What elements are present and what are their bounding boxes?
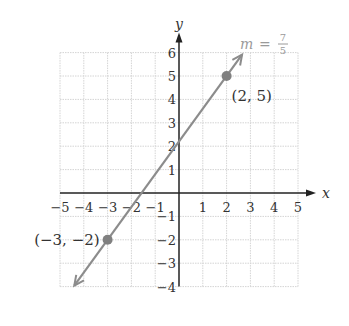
plot-lines <box>74 55 242 286</box>
y-tick-label: 4 <box>168 92 176 107</box>
y-tick-label: −1 <box>157 209 176 224</box>
data-point <box>103 235 113 245</box>
x-tick-label: 2 <box>222 200 230 215</box>
y-tick-label: −4 <box>157 280 176 295</box>
y-tick-label: 3 <box>168 116 176 131</box>
slope-variable: m <box>240 36 253 52</box>
y-tick-label: −3 <box>157 256 176 271</box>
x-tick-label: −4 <box>74 200 93 215</box>
y-tick-label: 6 <box>168 46 176 61</box>
x-tick-label: 3 <box>246 200 254 215</box>
slope-numerator: 7 <box>280 32 286 43</box>
point-label: (2, 5) <box>232 87 272 105</box>
plot-points: (−3, −2)(2, 5) <box>34 71 272 249</box>
y-tick-label: 1 <box>168 163 176 178</box>
data-point <box>222 71 232 81</box>
x-axis-label: x <box>322 185 330 201</box>
y-axis-arrow-icon <box>176 33 183 43</box>
axes: xy <box>60 16 330 287</box>
y-tick-label: −2 <box>157 233 176 248</box>
point-label: (−3, −2) <box>34 231 99 249</box>
x-tick-label: −3 <box>98 200 117 215</box>
x-tick-label: 5 <box>294 200 302 215</box>
slope-equals: = <box>259 36 271 52</box>
x-axis-arrow-icon <box>306 190 316 197</box>
x-tick-label: 1 <box>199 200 207 215</box>
x-tick-label: −5 <box>50 200 69 215</box>
slope-denominator: 5 <box>280 45 286 56</box>
y-axis-label: y <box>174 16 184 32</box>
coordinate-plane: xy −5−4−3−2−112345−4−3−2−1123456 (−3, −2… <box>0 0 349 326</box>
y-tick-label: 5 <box>168 69 176 84</box>
series-line <box>74 55 242 286</box>
x-tick-label: 4 <box>270 200 278 215</box>
